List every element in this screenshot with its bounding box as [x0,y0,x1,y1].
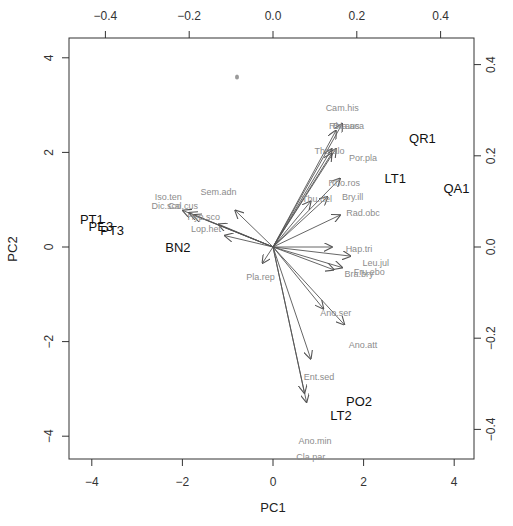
loading-label: Bry.ill [342,192,363,202]
loading-label: Ent.sed [304,372,335,382]
right-tick-label: −0.2 [484,326,498,350]
loading-label: Cla.par [296,452,325,462]
loading-arrow [273,247,304,393]
loading-arrow [273,201,311,247]
x-tick-label: −4 [85,475,99,489]
right-tick-label: −0.4 [484,417,498,441]
site-label: PT3 [100,223,124,238]
x-axis-label: PC1 [260,500,285,515]
loading-label: Hyp.sco [188,212,221,222]
loading-label: Cal.cus [168,201,199,211]
y-tick-label: −2 [42,334,56,348]
loading-label: Ano.min [298,436,331,446]
loading-label: Rad.obc [346,208,380,218]
top-axis: −0.4−0.20.00.20.4 [94,9,450,38]
loading-arrow [235,211,273,247]
loading-label: Lop.het [191,224,222,234]
loading-label: Ano.att [349,340,378,350]
y-axis-label: PC2 [5,236,20,261]
bottom-axis: −4−2024 [85,459,458,489]
loading-arrow [263,247,273,263]
y-tick-label: 0 [42,243,56,250]
x-tick-label: 0 [270,475,277,489]
top-tick-label: −0.2 [177,9,201,23]
top-tick-label: 0.4 [432,9,449,23]
top-tick-label: 0.2 [348,9,365,23]
loading-label: Pla.rep [246,272,275,282]
pca-biplot: −0.4−0.20.00.20.4 −0.4−0.20.00.20.4 −4−2… [0,0,513,526]
loading-label: Sem.adn [201,187,237,197]
site-label: PO2 [346,394,372,409]
loading-label: Ano.ser [320,308,351,318]
x-tick-label: 4 [451,475,458,489]
loading-label: The.alo [315,146,345,156]
x-tick-label: 2 [360,475,367,489]
right-tick-label: 0.2 [484,147,498,164]
left-axis: −4−2024 [42,54,69,443]
loading-arrow [273,247,311,359]
right-tick-label: 0.0 [484,238,498,255]
site-label: QA1 [443,181,469,196]
loading-arrow [273,247,344,325]
y-tick-label: 2 [42,149,56,156]
site-label: LT2 [330,408,351,423]
loading-label: Cam.his [326,103,360,113]
top-tick-label: 0.0 [265,9,282,23]
top-tick-label: −0.4 [94,9,118,23]
y-tick-label: 4 [42,54,56,61]
loading-label: Bra.bry [344,269,374,279]
right-axis: −0.4−0.20.00.20.4 [474,56,498,441]
site-label: LT1 [385,171,406,186]
loading-label: Thu.del [302,194,332,204]
x-tick-label: −2 [176,475,190,489]
site-label: BN2 [165,240,190,255]
loading-label: Por.pla [349,153,377,163]
site-label: QR1 [409,131,436,146]
y-tick-label: −4 [42,429,56,443]
loading-label: Hap.tri [346,244,373,254]
loading-label: Rho.ros [328,178,360,188]
loading-arrow [273,179,340,247]
right-tick-label: 0.4 [484,56,498,73]
loading-arrow [273,247,342,268]
smudge-mark [235,75,239,80]
loading-label: Bra.aca [333,121,364,131]
